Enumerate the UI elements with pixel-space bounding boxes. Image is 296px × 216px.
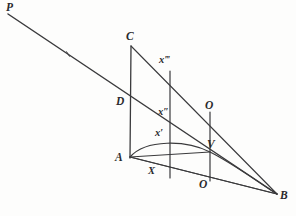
point-label-text: D <box>116 95 124 107</box>
point-label-text: O <box>205 99 213 111</box>
figure-canvas <box>0 0 296 216</box>
point-label-x1: x′ <box>155 128 163 139</box>
vertical-C-A <box>130 46 131 158</box>
point-label-text: X <box>148 165 155 176</box>
point-label-x3: x‴ <box>159 55 170 66</box>
point-label-primes: ″ <box>163 106 168 117</box>
point-label-p: P <box>6 2 13 14</box>
point-label-x2: x″ <box>158 107 168 118</box>
point-label-text: B <box>280 189 288 201</box>
point-label-primes: ′ <box>160 127 163 138</box>
point-label-v: V <box>207 139 215 151</box>
geometry-figure: PCx‴Dx″Ox′AVXOB <box>0 0 296 216</box>
point-label-text: O <box>199 178 207 190</box>
point-label-text: A <box>115 151 123 163</box>
point-label-x: X <box>148 166 155 177</box>
point-label-c: C <box>126 31 134 43</box>
point-label-a: A <box>115 152 123 164</box>
point-label-b: B <box>280 190 288 202</box>
point-label-d: D <box>116 96 124 108</box>
point-label-text: C <box>126 30 134 42</box>
point-label-text: V <box>207 138 215 150</box>
point-label-olow: O <box>199 179 207 191</box>
point-label-oup: O <box>205 100 213 112</box>
point-label-primes: ‴ <box>164 54 169 65</box>
point-label-text: P <box>6 1 13 13</box>
